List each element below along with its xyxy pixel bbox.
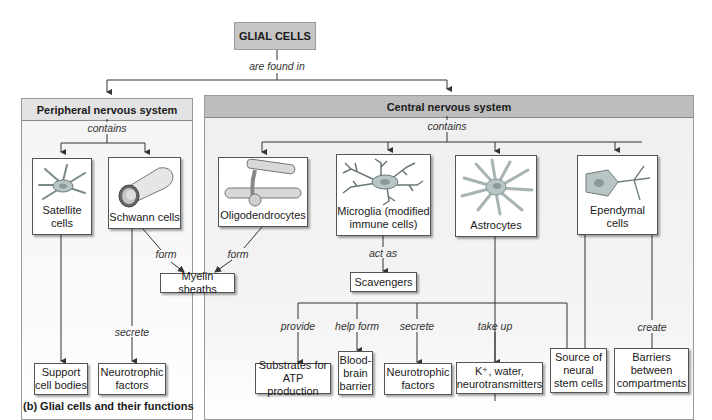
astrocytes-label: Astrocytes xyxy=(456,219,536,232)
pns-contains-label: contains xyxy=(87,122,126,134)
oligodendrocyte-icon xyxy=(219,158,309,212)
satellite-cell-icon xyxy=(33,159,93,209)
create-label: create xyxy=(637,321,666,333)
scavengers-box: Scavengers xyxy=(350,272,417,292)
cns-neurotrophic-factors-box: Neurotrophicfactors xyxy=(384,363,452,395)
myelin-sheaths-box: Myelin sheaths xyxy=(160,273,235,293)
ependymal-cell-icon xyxy=(578,156,659,206)
are-found-in-label: are found in xyxy=(249,60,304,72)
microglia-label: Microglia (modified immune cells) xyxy=(337,205,430,231)
astrocyte-icon xyxy=(456,156,538,218)
microglia-card: Microglia (modified immune cells) xyxy=(336,154,431,236)
oligodendrocytes-label: Oligodendrocytes xyxy=(219,209,307,222)
satellite-cells-card: Satellite cells xyxy=(32,158,92,235)
oligodendrocytes-card: Oligodendrocytes xyxy=(218,157,308,227)
blood-brain-barrier-box: Blood-brainbarrier xyxy=(338,351,373,395)
figure-caption: (b) Glial cells and their functions xyxy=(23,400,194,412)
astrocytes-card: Astrocytes xyxy=(455,155,537,237)
atp-substrates-box: Substrates forATP production xyxy=(255,363,331,394)
k-water-neurotransmitters-box: K⁺, water,neurotransmitters xyxy=(456,362,543,394)
support-cell-bodies-box: Supportcell bodies xyxy=(34,363,88,395)
schwann-cell-icon xyxy=(109,158,182,210)
provide-label: provide xyxy=(281,320,315,332)
microglia-icon xyxy=(337,155,432,209)
ependymal-cells-card: Ependymal cells xyxy=(577,155,658,235)
schwann-cells-label: Schwann cells xyxy=(109,211,180,224)
help-form-label: help form xyxy=(335,320,379,332)
pns-secrete-label: secrete xyxy=(115,326,149,338)
pns-neurotrophic-factors-box: Neurotrophicfactors xyxy=(98,363,166,395)
glial-cells-root: GLIAL CELLS xyxy=(234,22,316,50)
take-up-label: take up xyxy=(478,320,512,332)
oligo-form-label: form xyxy=(228,248,249,260)
act-as-label: act as xyxy=(369,247,397,259)
ependymal-cells-label: Ependymal cells xyxy=(578,204,657,230)
cns-contains-label: contains xyxy=(427,120,466,132)
schwann-form-label: form xyxy=(156,248,177,260)
neural-stem-cells-box: Source ofneuralstem cells xyxy=(550,348,607,393)
schwann-cells-card: Schwann cells xyxy=(108,157,181,229)
barriers-between-compartments-box: Barriersbetweencompartments xyxy=(614,348,689,393)
secrete-label: secrete xyxy=(400,320,434,332)
satellite-cells-label: Satellite cells xyxy=(33,204,91,230)
